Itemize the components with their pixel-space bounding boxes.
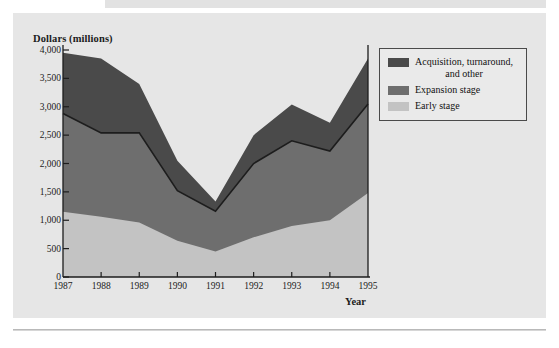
x-axis-title: Year <box>345 296 366 307</box>
legend-swatch-icon <box>388 58 409 67</box>
x-tick-label: 1993 <box>282 281 301 291</box>
horizontal-divider-rule <box>13 329 546 331</box>
legend-item-2[interactable]: Early stage <box>388 100 518 112</box>
x-axis-tick-labels: 198719881989199019911992199319941995 <box>13 281 546 301</box>
chart-legend: Acquisition, turnaround,and otherExpansi… <box>379 48 527 121</box>
legend-swatch-icon <box>388 102 409 111</box>
x-tick-label: 1987 <box>54 281 73 291</box>
legend-item-label: Expansion stage <box>415 84 480 96</box>
legend-item-label: Acquisition, turnaround,and other <box>415 56 513 80</box>
figure-root: Dollars (millions) 05001,0001,5002,0002,… <box>0 0 559 348</box>
legend-swatch-icon <box>388 86 409 95</box>
legend-item-label-line2: and other <box>415 68 513 80</box>
x-tick-label: 1994 <box>320 281 339 291</box>
top-decorative-strip <box>105 0 546 8</box>
legend-item-label: Early stage <box>415 100 460 112</box>
x-tick-label: 1988 <box>92 281 111 291</box>
x-tick-label: 1989 <box>130 281 149 291</box>
x-tick-label: 1991 <box>206 281 225 291</box>
x-tick-label: 1992 <box>244 281 263 291</box>
area-series-group <box>63 53 368 277</box>
stacked-area-chart: Dollars (millions) 05001,0001,5002,0002,… <box>13 13 546 318</box>
x-tick-label: 1990 <box>168 281 187 291</box>
legend-item-1[interactable]: Expansion stage <box>388 84 518 96</box>
x-tick-label: 1995 <box>359 281 378 291</box>
legend-item-0[interactable]: Acquisition, turnaround,and other <box>388 56 518 80</box>
figure-panel: Dollars (millions) 05001,0001,5002,0002,… <box>13 13 546 318</box>
